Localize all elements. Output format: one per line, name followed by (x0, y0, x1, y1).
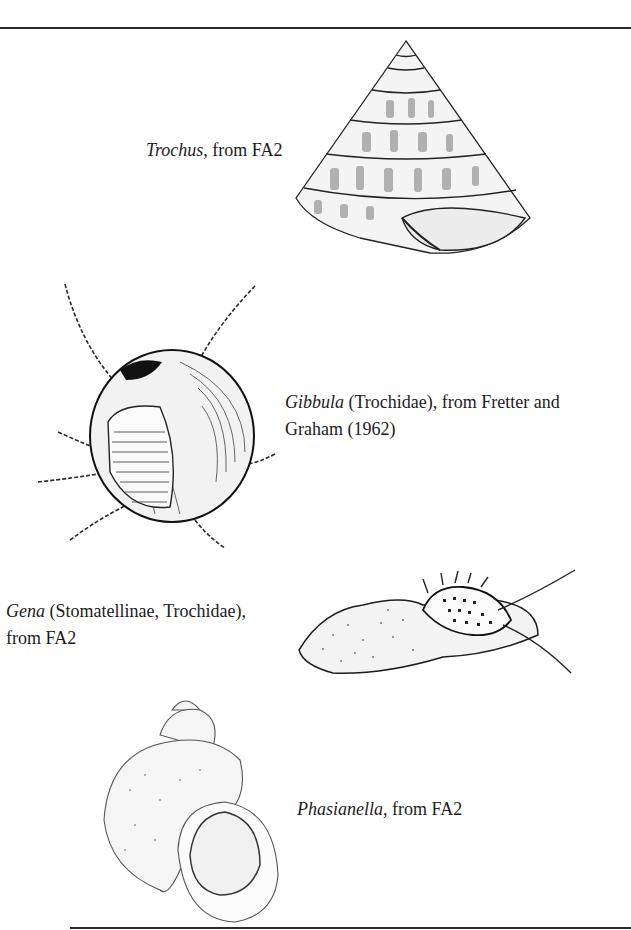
genus-name: Gena (6, 601, 45, 621)
top-rule (0, 27, 631, 29)
caption-text-line2: from FA2 (6, 625, 246, 652)
gena-illustration (293, 565, 583, 680)
bottom-rule (70, 927, 631, 929)
trochus-illustration (290, 38, 540, 263)
caption-gena: Gena (Stomatellinae, Trochidae), from FA… (6, 598, 246, 652)
caption-text: (Trochidae), from Fretter and (344, 392, 560, 412)
gibbula-illustration (30, 282, 280, 552)
caption-gibbula: Gibbula (Trochidae), from Fretter and Gr… (285, 389, 560, 443)
caption-trochus: Trochus, from FA2 (146, 137, 283, 164)
genus-name: Phasianella (297, 799, 383, 819)
caption-text: , from FA2 (203, 140, 282, 160)
caption-phasianella: Phasianella, from FA2 (297, 796, 462, 823)
caption-text: (Stomatellinae, Trochidae), (45, 601, 246, 621)
genus-name: Gibbula (285, 392, 344, 412)
genus-name: Trochus (146, 140, 203, 160)
caption-text-line2: Graham (1962) (285, 416, 560, 443)
phasianella-illustration (100, 690, 285, 925)
caption-text: , from FA2 (383, 799, 462, 819)
